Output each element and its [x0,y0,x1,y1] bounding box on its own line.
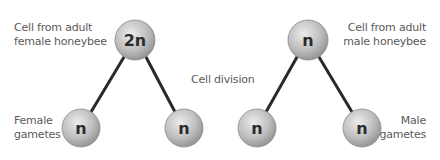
male-gamete-2-ploidy: n [356,119,367,138]
male-parent-label-line2: male honeybee [343,35,426,49]
female-parent-label-line1: Cell from adult [14,21,107,35]
female-gamete-1-ploidy: n [75,119,86,138]
male-gametes-label-line1: Male [379,114,426,128]
female-gametes-label-line1: Female [14,114,61,128]
male-parent-label: Cell from adult male honeybee [343,21,426,49]
female-parent-label: Cell from adult female honeybee [14,21,107,49]
male-parent-ploidy: n [302,31,313,50]
female-gametes-label: Female gametes [14,114,61,142]
female-division-line-right [146,57,175,112]
female-gametes-label-line2: gametes [14,128,61,142]
male-division-line-right [319,57,352,112]
female-parent-label-line2: female honeybee [14,35,107,49]
cell-division-label: Cell division [191,73,255,87]
male-gametes-label-line2: gametes [379,128,426,142]
female-gamete-2-ploidy: n [178,119,189,138]
female-division-line-left [91,57,124,112]
male-gametes-label: Male gametes [379,114,426,142]
female-parent-ploidy: 2n [124,31,147,50]
male-gamete-1-ploidy: n [251,119,262,138]
male-parent-label-line1: Cell from adult [343,21,426,35]
male-division-line-left [266,57,297,112]
honeybee-cell-division-diagram: 2n n n n n n Cell from adult female hone… [0,0,440,160]
